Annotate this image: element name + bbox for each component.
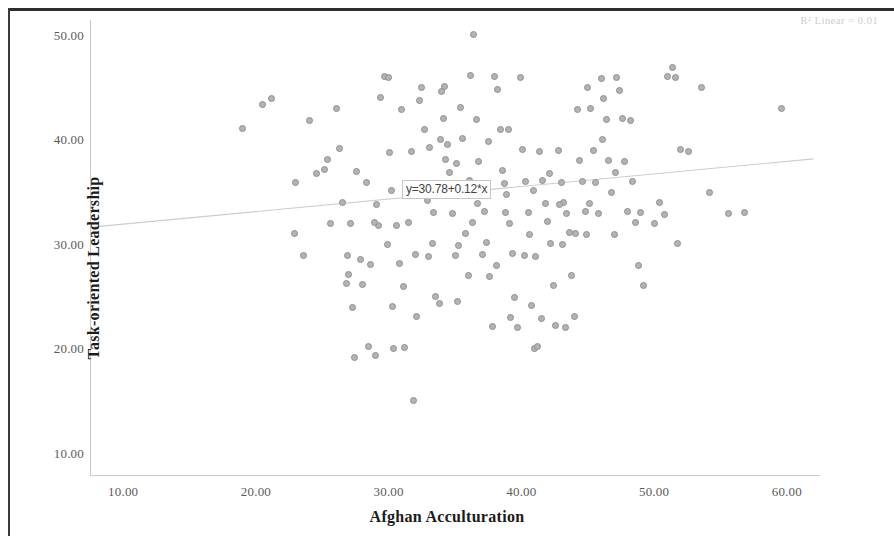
scatter-point: [239, 125, 246, 132]
scatter-point: [489, 323, 496, 330]
regression-equation-label: y=30.78+0.12*x: [402, 180, 491, 199]
scatter-point: [353, 168, 360, 175]
x-tick-label: 50.00: [639, 484, 669, 500]
scatter-point: [725, 210, 732, 217]
scatter-point: [506, 220, 513, 227]
scatter-point: [408, 148, 415, 155]
scatter-point: [343, 280, 350, 287]
scatter-point: [519, 146, 526, 153]
scatter-point: [418, 84, 425, 91]
scatter-point: [536, 148, 543, 155]
y-tick-label: 10.00: [54, 446, 84, 462]
scatter-point: [637, 209, 644, 216]
scatter-point: [416, 97, 423, 104]
scatter-point: [511, 294, 518, 301]
scatter-point: [371, 219, 378, 226]
scatter-point: [538, 315, 545, 322]
scatter-point: [396, 260, 403, 267]
scatter-point: [475, 158, 482, 165]
scatter-point: [741, 209, 748, 216]
scatter-point: [430, 209, 437, 216]
scatter-point: [559, 241, 566, 248]
scatter-point: [442, 156, 449, 163]
scatter-point: [259, 101, 266, 108]
scatter-point: [698, 84, 705, 91]
scatter-point: [522, 178, 529, 185]
scatter-point: [685, 148, 692, 155]
scatter-point: [469, 219, 476, 226]
scatter-point: [532, 253, 539, 260]
scatter-point: [465, 272, 472, 279]
scatter-point: [579, 178, 586, 185]
scatter-point: [539, 177, 546, 184]
scatter-point: [509, 250, 516, 257]
scatter-point: [619, 115, 626, 122]
scatter-point: [441, 83, 448, 90]
scatter-point: [336, 145, 343, 152]
scatter-point: [563, 210, 570, 217]
scatter-point: [386, 149, 393, 156]
x-axis-title: Afghan Acculturation: [0, 508, 894, 526]
scatter-point: [436, 300, 443, 307]
scatter-point: [530, 187, 537, 194]
scatter-point: [608, 189, 615, 196]
scatter-point: [344, 252, 351, 259]
scatter-point: [556, 201, 563, 208]
r-squared-annotation: R² Linear = 0.01: [800, 14, 878, 26]
scatter-point: [363, 179, 370, 186]
scatter-point: [552, 322, 559, 329]
scatter-point: [438, 88, 445, 95]
scatter-point: [544, 218, 551, 225]
scatter-point: [486, 273, 493, 280]
scatter-point: [345, 271, 352, 278]
scatter-point: [514, 324, 521, 331]
scatter-point: [525, 209, 532, 216]
scatter-point: [595, 210, 602, 217]
scatter-point: [446, 169, 453, 176]
scatter-point: [632, 219, 639, 226]
scatter-point: [531, 345, 538, 352]
scatter-point: [432, 293, 439, 300]
scatter-point: [292, 179, 299, 186]
scatter-point: [479, 251, 486, 258]
y-tick-label: 50.00: [54, 28, 84, 44]
scatter-point: [497, 126, 504, 133]
scatter-point: [598, 75, 605, 82]
scatter-point: [568, 272, 575, 279]
scatter-point: [517, 74, 524, 81]
scatter-point: [560, 199, 567, 206]
scatter-point: [291, 230, 298, 237]
page-border-top: [8, 8, 894, 11]
scatter-point: [313, 170, 320, 177]
scatter-point: [582, 208, 589, 215]
scatter-point: [459, 135, 466, 142]
scatter-point: [321, 166, 328, 173]
scatter-point: [635, 262, 642, 269]
scatter-point: [367, 261, 374, 268]
scatter-point: [454, 298, 461, 305]
scatter-point: [410, 397, 417, 404]
scatter-point: [627, 117, 634, 124]
scatter-point: [571, 313, 578, 320]
scatter-point: [339, 199, 346, 206]
scatter-point: [603, 116, 610, 123]
scatter-point: [612, 169, 619, 176]
scatter-point: [359, 281, 366, 288]
scatter-point: [706, 189, 713, 196]
scatter-point: [605, 157, 612, 164]
x-tick-label: 20.00: [241, 484, 271, 500]
x-axis-tick-labels: 10.0020.0030.0040.0050.0060.00: [0, 484, 894, 508]
scatter-point: [453, 160, 460, 167]
scatter-point: [452, 252, 459, 259]
y-tick-label: 40.00: [54, 132, 84, 148]
scatter-point: [324, 156, 331, 163]
scatter-point: [393, 222, 400, 229]
scatter-point: [389, 303, 396, 310]
scatter-point: [502, 209, 509, 216]
scatter-point: [377, 94, 384, 101]
scatter-point: [365, 343, 372, 350]
scatter-point: [499, 167, 506, 174]
scatter-point: [661, 211, 668, 218]
scatter-point: [349, 304, 356, 311]
scatter-point: [381, 73, 388, 80]
